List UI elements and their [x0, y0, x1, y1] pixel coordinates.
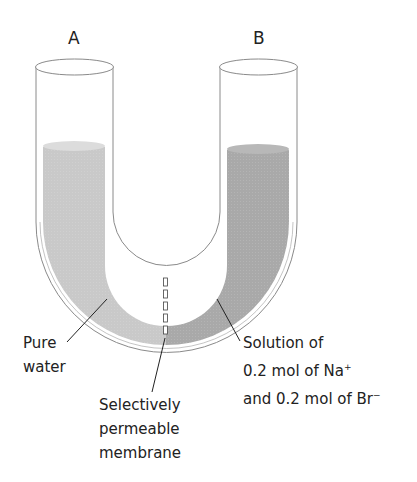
solution-line2: 0.2 mol of Na+ [243, 355, 381, 383]
tube-a-rim [36, 59, 114, 75]
solution-label: Solution of 0.2 mol of Na+ and 0.2 mol o… [243, 331, 381, 411]
solution-line3: and 0.2 mol of Br− [243, 383, 381, 411]
solution-line1: Solution of [243, 331, 381, 355]
pure-water-line1: Pure [23, 331, 66, 355]
membrane-line2: permeable [99, 417, 181, 441]
sodium-text: 0.2 mol of Na [243, 362, 344, 380]
tube-b-rim [220, 59, 298, 75]
pure-water-label: Pure water [23, 331, 66, 379]
bromide-text: and 0.2 mol of Br [243, 390, 373, 408]
membrane-line3: membrane [99, 441, 181, 465]
solution-surface [227, 144, 289, 154]
membrane-label: Selectively permeable membrane [99, 393, 181, 465]
membrane-line1: Selectively [99, 393, 181, 417]
selectively-permeable-membrane [164, 278, 168, 334]
pure-water-surface [43, 141, 105, 151]
arm-label-a: A [68, 26, 80, 50]
pure-water-line2: water [23, 355, 66, 379]
sodium-charge: + [344, 362, 352, 372]
bromide-charge: − [373, 390, 381, 400]
arm-label-b: B [253, 26, 265, 50]
